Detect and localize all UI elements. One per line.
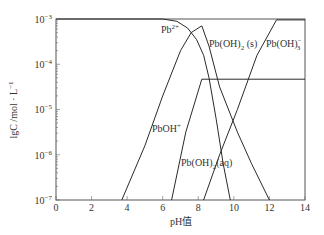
ytick-label: 10−7 (35, 194, 53, 206)
curve-pb-oh- (237, 20, 305, 110)
species-distribution-chart: 10−3 10−4 10−5 10−6 10−7 0 2 4 6 8 10 12… (0, 0, 324, 235)
ytick-label: 10−4 (35, 58, 53, 70)
curve-pb-oh-aq- (204, 110, 238, 201)
xtick-label: 2 (89, 202, 94, 213)
xtick-label: 0 (54, 202, 59, 213)
label-pboh-plus: PbOH+ (152, 122, 181, 134)
xtick-label: 12 (264, 202, 274, 213)
curve-pb- (56, 19, 230, 200)
curve-pb-oh-s- (172, 79, 305, 200)
xtick-label: 8 (196, 202, 201, 213)
x-axis-tick-labels: 0 2 4 6 8 10 12 14 (54, 202, 311, 213)
label-pboh3-minus: Pb(OH)−3 (266, 37, 302, 52)
y-axis-label: lgC /mol · L−1 (7, 81, 19, 139)
curve-pboh- (122, 26, 270, 200)
x-axis-label: pH值 (170, 215, 192, 227)
ytick-label: 10−6 (35, 149, 53, 161)
label-pb2plus: Pb2+ (161, 23, 179, 35)
xtick-label: 14 (300, 202, 310, 213)
ytick-label: 10−3 (35, 13, 53, 25)
xtick-label: 6 (160, 202, 165, 213)
xtick-label: 10 (229, 202, 239, 213)
y-axis-ticks (56, 21, 60, 200)
y-axis-tick-labels: 10−3 10−4 10−5 10−6 10−7 (35, 13, 53, 206)
ytick-label: 10−5 (35, 103, 53, 115)
label-pboh2-solid: Pb(OH)2 (s) (209, 38, 257, 52)
xtick-label: 4 (125, 202, 130, 213)
